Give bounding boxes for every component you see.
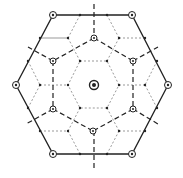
symmetry-diagram (0, 0, 183, 178)
center-sixfold-symbol (90, 81, 99, 90)
